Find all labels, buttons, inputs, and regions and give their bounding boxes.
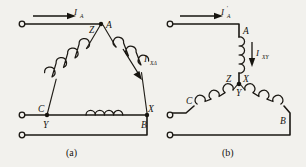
- terminal-b1-circle: [167, 21, 173, 27]
- svg-text:XΔ: XΔ: [149, 60, 157, 66]
- coil-star-left: [195, 84, 233, 104]
- lead-line-b-top: [173, 24, 239, 37]
- node-label-b-center-x: X: [242, 74, 250, 84]
- current-label-line-b: I ′ A: [220, 5, 231, 19]
- schematic-canvas: A Z C Y X B I A I XΔ (a): [0, 0, 306, 167]
- coil-star-right: [245, 84, 283, 104]
- coil-star-top: [239, 37, 245, 73]
- current-arrow-line-a: [33, 13, 76, 19]
- svg-text:A: A: [79, 13, 84, 19]
- current-arrow-winding-b: [249, 42, 255, 67]
- node-label-a-apex-a: A: [105, 20, 112, 30]
- node-label-b-center-y: Y: [236, 88, 243, 98]
- junction-dot-b-center: [237, 82, 242, 87]
- caption-panel-b: (b): [222, 147, 234, 159]
- figure-container: A Z C Y X B I A I XΔ (a): [0, 0, 306, 167]
- node-label-b-left-c: C: [186, 96, 193, 106]
- node-label-b-top-a: A: [242, 26, 249, 36]
- terminal-a2-circle: [19, 112, 25, 118]
- current-label-winding-b: I XY: [255, 48, 269, 60]
- node-label-a-left-y: Y: [43, 120, 50, 130]
- current-label-winding-a: I XΔ: [143, 54, 157, 66]
- svg-text:I: I: [73, 7, 78, 17]
- current-arrow-winding-a: [123, 49, 142, 80]
- delta-side-za-lower: [47, 79, 56, 115]
- svg-text:I: I: [220, 7, 225, 17]
- current-label-line-a: I A: [73, 7, 84, 19]
- current-arrow-line-b: [180, 13, 223, 19]
- node-label-b-center-z: Z: [226, 74, 232, 84]
- node-label-a-apex-z: Z: [89, 25, 95, 35]
- current-label-b-prime: ′: [227, 5, 229, 11]
- panel-b-star: A Z X Y C B I ′ A I XY (b): [167, 5, 290, 160]
- delta-side-ab-lower: [142, 73, 148, 114]
- node-label-a-right-b: B: [141, 120, 147, 130]
- caption-panel-a: (a): [66, 147, 77, 159]
- lead-line-b-right: [173, 106, 290, 135]
- junction-dot-a-left: [45, 113, 49, 117]
- coil-delta-left: [45, 39, 90, 77]
- junction-dot-a-apex: [99, 22, 103, 26]
- svg-text:I: I: [143, 54, 148, 64]
- panel-a-delta: A Z C Y X B I A I XΔ (a): [19, 7, 157, 159]
- node-label-a-right-x: X: [147, 104, 155, 114]
- svg-text:A: A: [226, 13, 231, 19]
- svg-text:XY: XY: [261, 54, 269, 60]
- node-label-b-right-b: B: [280, 116, 286, 126]
- node-label-a-left-c: C: [38, 104, 45, 114]
- terminal-a3-circle: [19, 132, 25, 138]
- terminal-a1-circle: [19, 21, 25, 27]
- terminal-b2-circle: [167, 112, 173, 118]
- svg-text:I: I: [255, 48, 260, 58]
- lead-line-b-left: [173, 106, 194, 113]
- terminal-b3-circle: [167, 132, 173, 138]
